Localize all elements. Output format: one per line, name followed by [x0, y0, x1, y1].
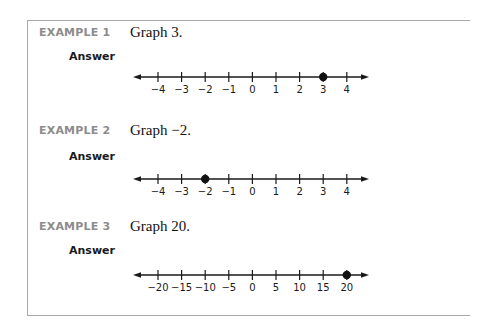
arrow-left-icon	[133, 272, 141, 278]
tick-label: 0	[249, 282, 255, 293]
tick-label: 10	[293, 282, 306, 293]
example-3-number-line: −20−15−10−505101520	[0, 0, 495, 331]
tick-label: 15	[317, 282, 330, 293]
tick-label: −20	[147, 282, 168, 293]
tick-label: −10	[195, 282, 216, 293]
tick-label: 20	[340, 282, 353, 293]
tick-label: −15	[171, 282, 192, 293]
graphed-point	[343, 271, 351, 279]
tick-label: 5	[273, 282, 279, 293]
tick-label: −5	[221, 282, 236, 293]
arrow-right-icon	[361, 272, 369, 278]
